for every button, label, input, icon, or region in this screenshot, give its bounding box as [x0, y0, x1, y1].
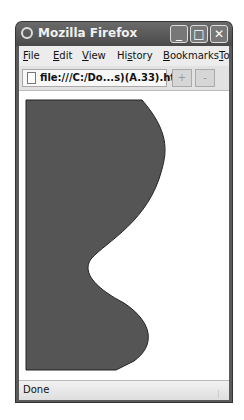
menu-bookmarks[interactable]: Bookmarks	[163, 50, 219, 61]
resize-grip[interactable]	[218, 390, 227, 398]
menu-view-label: iew	[89, 50, 106, 61]
menu-bar: File Edit View History Bookmarks To	[19, 46, 229, 66]
menu-file-label: ile	[28, 50, 40, 61]
tab-title: file:///C:/Do...s)(A.33).html	[40, 72, 189, 83]
maximize-button[interactable]: □	[190, 25, 208, 43]
status-text: Done	[23, 384, 49, 395]
status-bar: Done	[19, 380, 229, 400]
page-content	[19, 91, 229, 380]
menu-bookmarks-label: ookmarks	[170, 50, 219, 61]
menu-tools[interactable]: To	[219, 50, 230, 61]
menu-history[interactable]: History	[117, 50, 153, 61]
menu-view[interactable]: View	[82, 50, 106, 61]
menu-edit[interactable]: Edit	[53, 50, 72, 61]
minimize-button[interactable]: _	[170, 25, 188, 43]
page-icon	[27, 72, 36, 84]
menu-bookmarks-accel: B	[163, 50, 170, 61]
wavy-shape	[19, 91, 229, 380]
tab-bar: file:///C:/Do...s)(A.33).html + -	[19, 66, 229, 91]
menu-tools-label: o	[223, 50, 229, 61]
new-tab-button[interactable]: +	[172, 69, 192, 87]
window-title: Mozilla Firefox	[38, 26, 137, 40]
firefox-icon	[21, 27, 33, 39]
menu-edit-label: dit	[59, 50, 72, 61]
tab-list-button[interactable]: -	[195, 69, 215, 87]
tab-current[interactable]: file:///C:/Do...s)(A.33).html	[22, 69, 167, 87]
title-bar[interactable]: Mozilla Firefox _ □ ✕	[16, 22, 232, 46]
menu-file[interactable]: File	[23, 50, 40, 61]
browser-window: Mozilla Firefox _ □ ✕ File Edit View His…	[16, 22, 232, 402]
menu-history-label: tory	[133, 50, 153, 61]
close-button[interactable]: ✕	[210, 25, 228, 43]
menu-view-accel: V	[82, 50, 89, 61]
menu-history-pre: Hi	[117, 50, 127, 61]
